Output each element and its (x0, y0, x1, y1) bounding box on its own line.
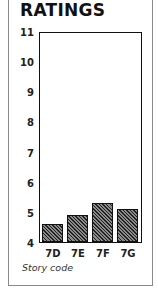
y-tick-label: 5 (4, 207, 34, 218)
y-tick-label: 11 (4, 27, 34, 38)
x-tick-label: 7D (41, 248, 65, 259)
bar-7G (117, 209, 139, 242)
x-tick-label: 7E (66, 248, 90, 259)
y-tick-label: 8 (4, 117, 34, 128)
x-tick-label: 7F (91, 248, 115, 259)
x-axis-label: Story code (22, 262, 73, 273)
bar-7D (42, 224, 64, 242)
bar-7E (67, 215, 89, 242)
y-tick-label: 6 (4, 177, 34, 188)
y-tick-label: 9 (4, 87, 34, 98)
bar-7F (92, 203, 114, 242)
x-tick-label: 7G (116, 248, 140, 259)
chart-title: RATINGS (20, 0, 105, 20)
plot-area (39, 32, 142, 243)
y-tick-label: 7 (4, 147, 34, 158)
y-tick-label: 4 (4, 238, 34, 249)
y-tick-label: 10 (4, 57, 34, 68)
